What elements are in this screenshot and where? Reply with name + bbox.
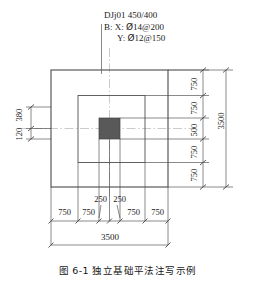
annotation-y-spec: 12@150 [135, 33, 166, 43]
bottom-dim-750-c: 750 [122, 207, 145, 217]
bottom-dim-total-3500: 3500 [94, 232, 126, 242]
rebar-symbol-icon: Ø [127, 33, 134, 43]
annotation-line-y-rebar: Y: Ø12@150 [104, 33, 165, 45]
left-dim-120: 120 [14, 123, 24, 145]
right-dim-500: 500 [189, 119, 199, 141]
foundation-annotation-block: DJj01 450/400 B: X: Ø14@200 Y: Ø12@150 [104, 10, 165, 45]
right-dim-750-c: 750 [189, 141, 199, 163]
column-section [99, 118, 120, 139]
bottom-dim-250-b: 250 [108, 194, 131, 204]
figure-container: DJj01 450/400 B: X: Ø14@200 Y: Ø12@150 7… [0, 0, 255, 284]
annotation-line-x-rebar: B: X: Ø14@200 [104, 22, 165, 34]
annotation-y-prefix: Y: [117, 33, 127, 43]
right-dim-750-d: 750 [189, 164, 199, 186]
annotation-x-prefix: B: X: [104, 22, 126, 32]
bottom-dim-750-d: 750 [146, 207, 169, 217]
bottom-dim-750-a: 750 [53, 207, 76, 217]
left-dimension-chain [26, 105, 51, 142]
annotation-x-spec: 14@200 [133, 22, 164, 32]
bottom-dim-750-b: 750 [77, 207, 100, 217]
annotation-line-designation: DJj01 450/400 [104, 10, 165, 22]
right-dim-total-3500: 3500 [216, 106, 226, 136]
figure-caption: 图 6-1 独立基础平法注写示例 [0, 263, 255, 277]
right-dim-750-a: 750 [189, 73, 199, 95]
right-dim-750-b: 750 [189, 97, 199, 119]
